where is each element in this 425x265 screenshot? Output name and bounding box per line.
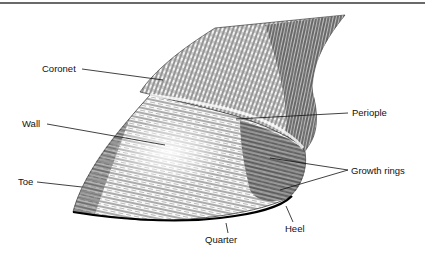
leader-coronet [82, 69, 163, 80]
label-toe: Toe [18, 177, 33, 187]
hoof-illustration [0, 0, 425, 265]
label-quarter: Quarter [205, 235, 237, 245]
leader-heel [286, 206, 293, 222]
label-growth-rings: Growth rings [351, 166, 405, 176]
label-coronet: Coronet [42, 64, 76, 74]
label-wall: Wall [22, 119, 40, 129]
label-periople: Periople [352, 108, 387, 118]
leader-quarter [226, 223, 228, 233]
leader-toe [37, 182, 82, 187]
label-heel: Heel [285, 224, 305, 234]
